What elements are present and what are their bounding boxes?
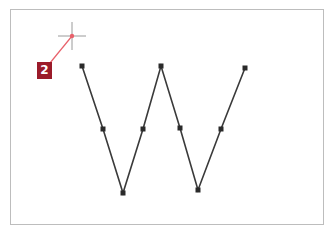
drawing-canvas[interactable] [0, 0, 336, 234]
crosshair-icon [58, 22, 86, 50]
anchor-point-7[interactable] [196, 188, 201, 193]
anchor-point-6[interactable] [178, 126, 183, 131]
anchor-point-9[interactable] [243, 66, 248, 71]
anchor-point-1[interactable] [80, 64, 85, 69]
anchor-point-2[interactable] [101, 127, 106, 132]
callout-leader-line [50, 36, 72, 63]
anchor-point-3[interactable] [121, 191, 126, 196]
anchor-point-5[interactable] [159, 64, 164, 69]
anchor-point-4[interactable] [141, 127, 146, 132]
anchor-point-8[interactable] [219, 127, 224, 132]
step-number-badge: 2 [37, 62, 52, 79]
anchor-points [80, 64, 248, 196]
